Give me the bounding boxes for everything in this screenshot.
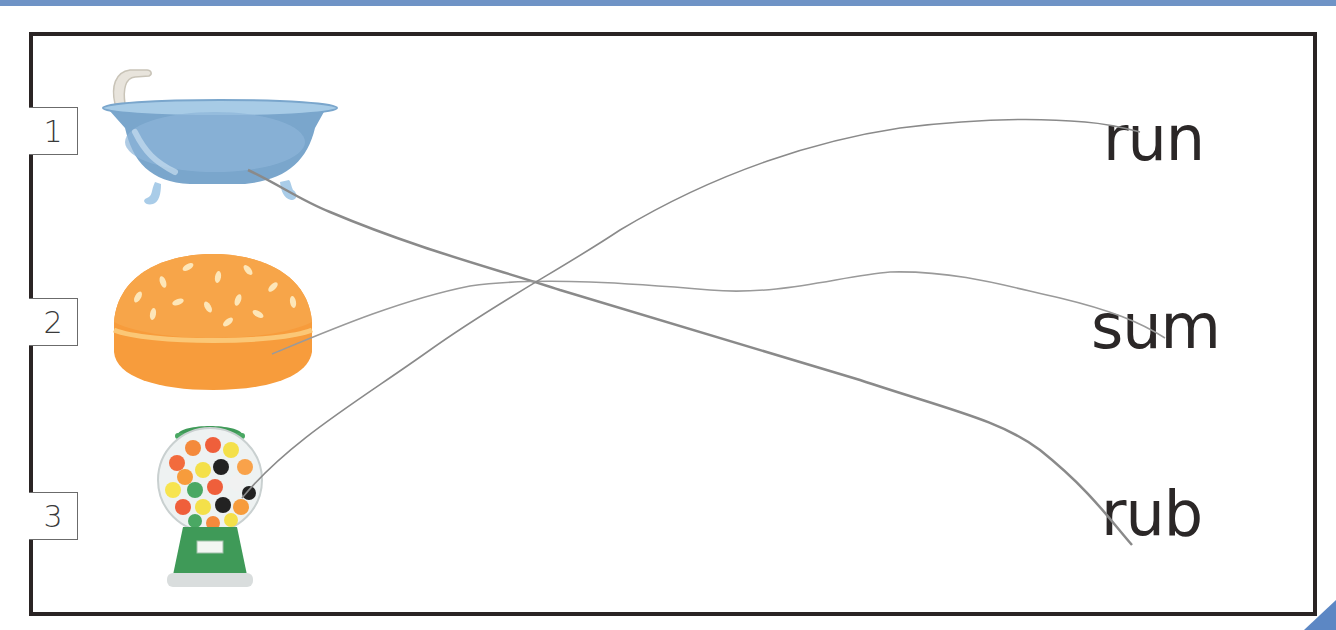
word-rub[interactable]: rub bbox=[1101, 483, 1202, 545]
row-number-3: 3 bbox=[29, 492, 78, 540]
top-accent-band bbox=[0, 0, 1336, 6]
row-number-1: 1 bbox=[29, 107, 78, 155]
bun-icon[interactable] bbox=[108, 252, 318, 397]
gumball-machine-icon[interactable] bbox=[155, 415, 265, 595]
word-run[interactable]: run bbox=[1103, 108, 1204, 170]
bathtub-icon[interactable] bbox=[95, 62, 340, 207]
row-number-2: 2 bbox=[29, 298, 78, 346]
word-sum[interactable]: sum bbox=[1091, 296, 1220, 358]
